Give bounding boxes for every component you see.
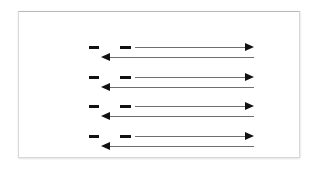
forward-arrow-line-3 [135, 106, 247, 107]
return-arrow-line-4 [109, 146, 254, 147]
return-arrow-line-1 [109, 57, 254, 58]
dash-marker-1a [89, 46, 99, 49]
arrow-head-left-icon-4 [101, 142, 110, 150]
arrow-group-1[interactable] [19, 40, 299, 62]
arrow-head-right-icon-1 [245, 43, 254, 51]
arrow-group-2[interactable] [19, 70, 299, 92]
dash-marker-4a [89, 135, 99, 138]
return-arrow-line-3 [109, 116, 254, 117]
forward-arrow-line-4 [135, 136, 247, 137]
forward-arrow-line-2 [135, 77, 247, 78]
arrow-head-right-icon-2 [245, 73, 254, 81]
arrow-head-left-icon-1 [101, 53, 110, 61]
dash-marker-2b [120, 76, 131, 79]
dash-marker-4b [120, 135, 131, 138]
dash-marker-3b [120, 105, 131, 108]
diagram-canvas [19, 12, 299, 157]
arrow-group-4[interactable] [19, 129, 299, 151]
forward-arrow-line-1 [135, 47, 247, 48]
dash-marker-2a [89, 76, 99, 79]
dash-marker-3a [89, 105, 99, 108]
arrow-head-right-icon-3 [245, 102, 254, 110]
arrow-group-3[interactable] [19, 99, 299, 121]
arrow-head-left-icon-2 [101, 83, 110, 91]
arrow-head-right-icon-4 [245, 132, 254, 140]
return-arrow-line-2 [109, 87, 254, 88]
dash-marker-1b [120, 46, 131, 49]
screenshot-root [0, 0, 314, 170]
arrow-head-left-icon-3 [101, 112, 110, 120]
diagram-panel [18, 11, 300, 158]
